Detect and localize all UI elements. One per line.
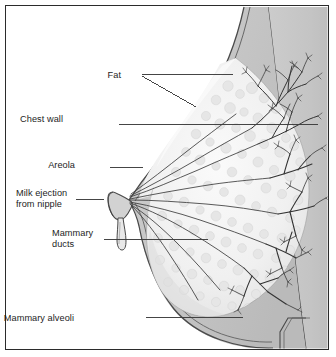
- label-fat-line-1: Fat: [108, 70, 121, 81]
- leader-line-fat-2: [142, 76, 196, 107]
- label-mammary-ducts-line-1: Mammary: [52, 228, 93, 239]
- label-fat: Fat: [108, 70, 121, 81]
- label-mammary-ducts: Mammaryducts: [52, 228, 93, 250]
- label-mammary-alveoli-line-1: Mammary alveoli: [4, 313, 74, 324]
- label-milk-ejection: Milk ejectionfrom nipple: [16, 188, 67, 210]
- figure-root: FatChest wallAreolaMilk ejectionfrom nip…: [0, 0, 336, 357]
- label-chest-wall-line-1: Chest wall: [20, 114, 63, 125]
- label-milk-ejection-line-1: Milk ejection: [16, 188, 67, 199]
- label-mammary-ducts-line-2: ducts: [52, 239, 93, 250]
- nipple-areola: [108, 192, 132, 250]
- label-mammary-alveoli: Mammary alveoli: [4, 313, 74, 324]
- label-areola: Areola: [48, 160, 75, 171]
- label-areola-line-1: Areola: [48, 160, 75, 171]
- label-milk-ejection-line-2: from nipple: [16, 199, 67, 210]
- label-chest-wall: Chest wall: [20, 114, 63, 125]
- milk-drop: [117, 218, 126, 250]
- breast-anatomy-illustration: [0, 0, 336, 357]
